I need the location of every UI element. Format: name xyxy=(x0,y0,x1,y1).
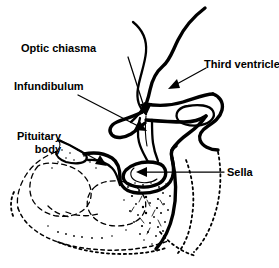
posterior-clinoid-oval xyxy=(177,105,214,126)
sphenoid-sinus-left xyxy=(30,163,91,216)
label-third-ventricle: Third ventricle xyxy=(204,58,279,71)
leader-sella xyxy=(136,167,224,177)
label-pituitary-body: Pituitarybody xyxy=(3,130,61,156)
sphenoid-body-outline xyxy=(17,152,168,250)
clivus-dotted-curves xyxy=(160,152,220,256)
label-pituitary-body-line2: body xyxy=(35,143,61,155)
leader-third-ventricle xyxy=(168,68,206,89)
label-sella: Sella xyxy=(227,166,253,179)
label-pituitary-body-line1: Pituitary xyxy=(17,130,61,142)
anatomy-figure: Optic chiasma Infundibulum Pituitarybody… xyxy=(0,0,279,268)
lower-left-speckles xyxy=(47,225,113,239)
lamina-terminalis-curve xyxy=(133,22,146,114)
basal-outline-dotted xyxy=(11,192,166,254)
label-optic-chiasma: Optic chiasma xyxy=(21,42,96,55)
label-infundibulum: Infundibulum xyxy=(14,80,84,93)
sphenoid-sinus-right xyxy=(87,181,146,226)
